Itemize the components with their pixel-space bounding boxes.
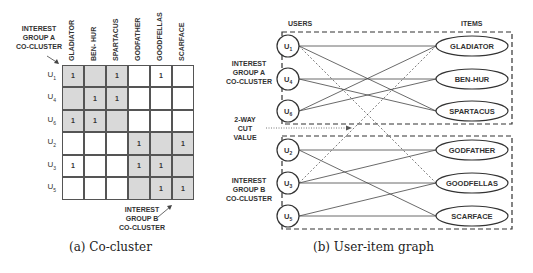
graph-edge bbox=[299, 183, 436, 216]
caption-right: (b) User-item graph bbox=[313, 240, 434, 254]
item-node-label: GLADIATOR bbox=[450, 42, 494, 51]
item-node-label: SPARTACUS bbox=[449, 107, 495, 116]
arrow-group-b bbox=[158, 207, 170, 217]
arrowhead-icon bbox=[54, 59, 59, 64]
item-node-label: BEN-HUR bbox=[455, 75, 490, 84]
item-node-label: GODFATHER bbox=[449, 146, 496, 155]
item-node-label: GOODFELLAS bbox=[446, 179, 498, 188]
item-node-label: SCARFACE bbox=[451, 212, 492, 221]
graph-edge bbox=[299, 150, 436, 183]
arrowhead-icon bbox=[346, 126, 352, 131]
user-item-graph: U1U4U6U2U3U5GLADIATORBEN-HURSPARTACUSGOD… bbox=[0, 0, 533, 273]
